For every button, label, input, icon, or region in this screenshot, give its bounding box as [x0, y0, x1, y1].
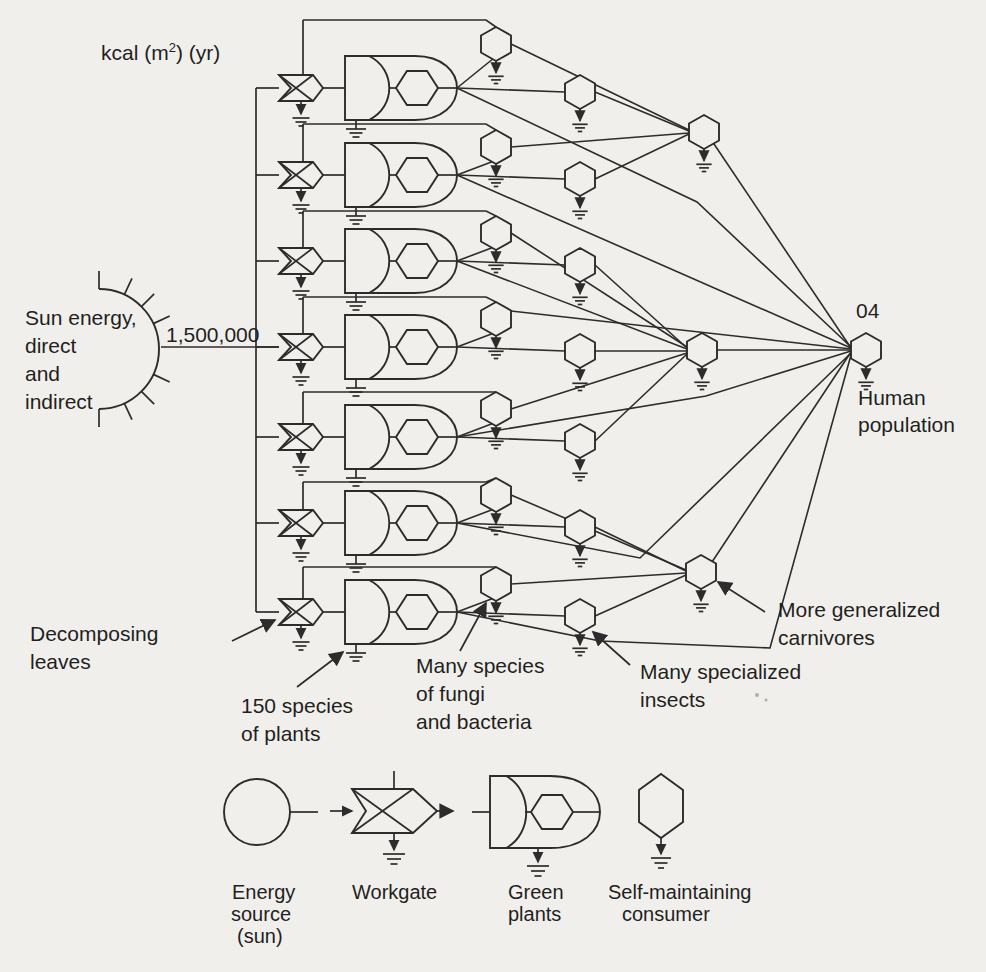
flow-plant-4-to-fungi-4	[457, 333, 494, 347]
generalized-carnivore-consumer-2-hexagon-icon	[687, 333, 717, 367]
fungi-bacteria-consumer-row-3-heat-sink-icon	[488, 250, 503, 273]
flow-insect-2-to-carnivore-1	[595, 134, 689, 179]
flow-plant-5-to-fungi-5	[457, 423, 494, 437]
workgate-heat-sink-icon	[293, 536, 310, 561]
legend-energy-source-label: Energysource(sun)	[231, 881, 295, 947]
fungi-bacteria-consumer-row-1-hexagon-icon	[481, 27, 511, 61]
fungi-bacteria-consumer-row-6-hexagon-icon	[481, 478, 511, 512]
legend-workgate-label-line-1: Workgate	[352, 881, 437, 903]
workgate-icon	[279, 334, 323, 360]
fungi-bacteria-label-line-1: Many species	[416, 654, 544, 677]
legend-consumer-icon	[639, 774, 683, 868]
workgate-icon	[279, 162, 323, 188]
generalized-carnivore-consumer-3-heat-sink-icon	[693, 589, 708, 612]
flow-plant-2-to-fungi-2	[457, 161, 494, 175]
sun-energy-label-line-3: and	[25, 362, 60, 385]
producer-row-4	[279, 315, 457, 396]
decomp-line-row-4	[303, 297, 496, 302]
human-population-label-line-1: Human	[858, 386, 926, 409]
flow-fungi-2-to-carnivore-1	[511, 133, 689, 147]
fungi-bacteria-label: Many speciesof fungiand bacteria	[416, 654, 544, 733]
fungi-bacteria-consumer-row-7	[481, 567, 511, 624]
legend-green-plants-label-line-2: plants	[508, 903, 561, 925]
generalized-carnivores-label-line-1: More generalized	[778, 598, 940, 621]
flow-plant-6-to-human	[457, 353, 851, 558]
decomposing-leaves-arrow	[232, 620, 275, 641]
workgate-icon	[279, 599, 323, 625]
insect-consumer-row-6-hexagon-icon	[565, 510, 595, 544]
insect-consumer-row-4	[565, 334, 595, 391]
insect-consumer-row-6	[565, 510, 595, 567]
human-tag-text: 04	[856, 299, 880, 322]
decomposing-leaves-label: Decomposingleaves	[30, 622, 158, 673]
flow-fungi-5-to-carnivore-2	[511, 353, 687, 409]
insect-consumer-row-3-hexagon-icon	[565, 248, 595, 282]
energy-flow-diagram: kcal (m2) (yr)Sun energy,directandindire…	[0, 0, 986, 972]
fungi-bacteria-consumer-row-1-heat-sink-icon	[488, 61, 503, 84]
flow-insect-3-to-carnivore-2	[595, 265, 687, 348]
flow-plant-5-to-insect-5	[457, 437, 565, 441]
flow-value-text: 1,500,000	[166, 323, 259, 346]
legend-energy-source-label-line-2: source	[231, 903, 291, 925]
insect-consumer-row-1	[565, 75, 595, 132]
unit-note-text: kcal (m2) (yr)	[101, 40, 220, 64]
plant-ground-icon	[346, 207, 366, 224]
insect-consumer-row-5	[565, 424, 595, 481]
plant-ground-icon	[346, 644, 366, 661]
flow-plant-4-to-insect-4	[457, 347, 565, 351]
fungi-bacteria-consumer-row-4-hexagon-icon	[481, 302, 511, 336]
legend-green-plants-icon	[472, 776, 600, 876]
specialized-insects-arrow	[593, 632, 630, 665]
fungi-bacteria-consumer-row-2-heat-sink-icon	[488, 164, 503, 187]
workgate-icon	[279, 248, 323, 274]
legend-workgate-icon	[330, 771, 453, 864]
specialized-insects-label: Many specializedinsects	[640, 660, 801, 711]
insect-consumer-row-4-hexagon-icon	[565, 334, 595, 368]
green-plant-icon	[345, 491, 457, 555]
fungi-bacteria-consumer-row-4-heat-sink-icon	[488, 336, 503, 359]
flow-carnivore-3-to-human	[712, 352, 851, 562]
workgate-heat-sink-icon	[293, 450, 310, 475]
fungi-bacteria-consumer-row-2-hexagon-icon	[481, 130, 511, 164]
scan-speckle	[765, 699, 768, 702]
sun-energy-label: Sun energy,directandindirect	[25, 306, 137, 413]
flow-fungi-3-to-carnivore-2	[511, 233, 687, 347]
fungi-bacteria-consumer-row-5	[481, 392, 511, 449]
insect-consumer-row-5-heat-sink-icon	[572, 458, 587, 481]
species-of-plants-label-line-2: of plants	[241, 722, 320, 745]
plant-ground-icon	[346, 469, 366, 486]
decomp-line-row-6	[303, 478, 496, 482]
plant-ground-icon	[346, 555, 366, 572]
plant-ground-icon	[346, 293, 366, 310]
sun-energy-label-line-1: Sun energy,	[25, 306, 137, 329]
sun-energy-source-icon	[99, 271, 170, 427]
workgate-heat-sink-icon	[293, 625, 310, 650]
insect-consumer-row-2-hexagon-icon	[565, 162, 595, 196]
decomposing-leaves-label-line-1: Decomposing	[30, 622, 158, 645]
sun-energy-bus	[161, 88, 279, 612]
flow-fungi-7-to-carnivore-3	[511, 573, 686, 584]
fungi-bacteria-consumer-row-1	[481, 27, 511, 84]
workgate-heat-sink-icon	[293, 188, 310, 213]
decomposing-leaves-label-line-2: leaves	[30, 650, 91, 673]
generalized-carnivore-consumer-1-hexagon-icon	[689, 115, 719, 149]
workgate-heat-sink-icon	[293, 360, 310, 385]
specialized-insects-label-line-1: Many specialized	[640, 660, 801, 683]
unit-note: kcal (m2) (yr)	[101, 40, 220, 64]
fungi-bacteria-label-line-3: and bacteria	[416, 710, 532, 733]
plant-ground-icon	[346, 120, 366, 137]
flow-fungi-1-to-carnivore-1	[511, 44, 689, 130]
legend-consumer-label: Self-maintainingconsumer	[608, 881, 751, 925]
producer-row-5	[279, 405, 457, 486]
fungi-bacteria-label-line-2: of fungi	[416, 682, 485, 705]
flow-plant-3-to-insect-3	[457, 261, 565, 265]
producer-row-6	[279, 491, 457, 572]
producer-row-7	[279, 580, 457, 661]
fungi-bacteria-consumer-row-3	[481, 216, 511, 273]
decomp-line-row-2	[303, 124, 496, 130]
insect-consumer-row-7-hexagon-icon	[565, 599, 595, 633]
human-population-consumer	[851, 333, 881, 390]
fungi-bacteria-consumer-row-2	[481, 130, 511, 187]
legend-consumer-label-line-2: consumer	[622, 903, 710, 925]
insect-consumer-row-2-heat-sink-icon	[572, 196, 587, 219]
